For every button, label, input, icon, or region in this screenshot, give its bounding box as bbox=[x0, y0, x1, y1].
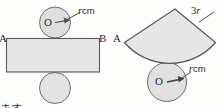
left-radius-unit: cm bbox=[82, 5, 94, 16]
right-radius-unit: cm bbox=[193, 63, 205, 74]
right-slant-leader-line bbox=[199, 12, 214, 22]
right-point-a-label: A bbox=[113, 33, 121, 44]
left-radius-dimension-label: rcm bbox=[78, 6, 94, 17]
geometry-diagram-canvas bbox=[0, 0, 219, 108]
right-slant-symbol: r bbox=[196, 5, 200, 16]
right-center-o-label: O bbox=[155, 76, 163, 87]
right-slant-dimension-label: 3r bbox=[191, 6, 200, 17]
left-bottom-circle bbox=[40, 73, 71, 104]
figure-screenshot: A B O rcm A 3r O rcm ます bbox=[0, 0, 219, 108]
right-radius-dimension-label: rcm bbox=[189, 64, 205, 75]
left-center-o-label: O bbox=[44, 17, 52, 28]
left-point-b-label: B bbox=[99, 33, 106, 44]
left-rectangle-lateral-surface bbox=[7, 39, 100, 73]
bottom-caption-text: ます bbox=[0, 100, 22, 108]
figure-right-cone-net bbox=[125, 9, 216, 102]
left-point-a-label: A bbox=[0, 33, 7, 44]
right-sector-lateral-surface bbox=[125, 9, 216, 63]
figure-left-cylinder-net bbox=[7, 7, 100, 104]
